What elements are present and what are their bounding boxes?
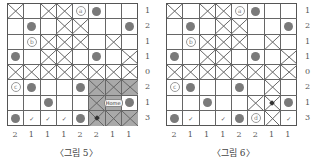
grid-cell — [265, 4, 281, 19]
row-label: 3 — [305, 110, 310, 125]
grid-cell — [106, 35, 122, 50]
grid-cell — [57, 65, 73, 80]
cross-mark-icon — [265, 111, 280, 126]
grid-cell — [281, 19, 297, 34]
cross-mark-icon — [200, 50, 215, 64]
grid-cell — [24, 4, 40, 19]
circled-letter-d: d — [251, 113, 261, 123]
cross-mark-icon — [216, 4, 231, 18]
grid-cell — [248, 65, 264, 80]
grid-cell — [167, 35, 183, 50]
check-mark-icon: ✓ — [29, 115, 34, 122]
grid-cell — [8, 35, 24, 50]
grid-cell — [248, 96, 264, 111]
grid-cell — [216, 96, 232, 111]
filled-circle-icon — [284, 22, 293, 31]
grid-cell — [122, 80, 138, 95]
grid-cell — [57, 4, 73, 19]
cross-mark-icon — [89, 80, 104, 94]
col-label: 1 — [40, 130, 56, 139]
grid-cell — [73, 50, 89, 65]
col-labels-6: 21112211 — [166, 130, 296, 139]
grid-cell — [57, 96, 73, 111]
col-label: 2 — [88, 130, 104, 139]
grid-cell — [216, 19, 232, 34]
grid-cell — [24, 19, 40, 34]
grid-cell — [57, 80, 73, 95]
grid-cell — [41, 96, 57, 111]
grid-cell — [232, 65, 248, 80]
filled-circle-icon — [76, 114, 85, 123]
cross-mark-icon — [122, 65, 138, 79]
check-mark-icon: ✓ — [286, 115, 291, 122]
grid-cell — [281, 35, 297, 50]
grid-cell — [248, 19, 264, 34]
filled-circle-icon — [251, 52, 260, 61]
row-label: 2 — [145, 79, 150, 94]
grid-cell — [57, 50, 73, 65]
grid-cell — [167, 111, 183, 126]
cross-mark-icon — [248, 96, 263, 110]
grid-cell — [73, 65, 89, 80]
cross-mark-icon — [41, 50, 56, 64]
row-label: 1 — [305, 34, 310, 49]
cross-mark-icon — [8, 65, 23, 79]
cross-mark-icon — [57, 50, 72, 64]
grid-cell — [248, 50, 264, 65]
filled-circle-icon — [235, 114, 244, 123]
row-label: 3 — [145, 110, 150, 125]
col-label: 2 — [166, 130, 182, 139]
grid-cell — [122, 19, 138, 34]
row-label: 1 — [145, 49, 150, 64]
grid-cell — [232, 111, 248, 126]
check-mark-icon: ✓ — [221, 115, 226, 122]
check-mark-icon: ✓ — [62, 115, 67, 122]
grid-cell — [89, 19, 105, 34]
grid-cell: c — [167, 80, 183, 95]
cross-mark-icon — [57, 65, 72, 79]
grid-cell — [200, 80, 216, 95]
circled-letter-b: b — [186, 37, 196, 47]
grid-cell — [216, 65, 232, 80]
grid-cell: d — [248, 111, 264, 126]
cross-mark-icon — [167, 65, 182, 79]
grid-cell — [167, 19, 183, 34]
cross-mark-icon — [41, 4, 56, 18]
grid-cell: ✓ — [24, 111, 40, 126]
grid-cell — [8, 65, 24, 80]
grid-cell — [265, 19, 281, 34]
col-label: 1 — [23, 130, 39, 139]
row-label: 0 — [145, 64, 150, 79]
grid-cell — [73, 80, 89, 95]
grid-cell — [167, 50, 183, 65]
filled-circle-icon — [11, 52, 20, 61]
grid-cell — [8, 111, 24, 126]
grid-cell — [265, 65, 281, 80]
circled-letter-a: a — [76, 6, 86, 16]
col-label: 1 — [199, 130, 215, 139]
grid-cell — [89, 35, 105, 50]
grid-cell: ✓ — [57, 111, 73, 126]
grid-cell — [216, 4, 232, 19]
grid-cell — [89, 4, 105, 19]
row-label: 1 — [305, 3, 310, 18]
cross-mark-icon — [167, 4, 182, 18]
grid-cell — [8, 96, 24, 111]
figure-caption-5: 〈그림 5〉 — [55, 146, 98, 159]
grid-cell — [89, 111, 105, 126]
grid-cell — [248, 35, 264, 50]
grid-cell — [41, 4, 57, 19]
row-label: 2 — [305, 18, 310, 33]
grid-cell — [183, 65, 199, 80]
grid-cell — [89, 80, 105, 95]
grid-cell — [200, 111, 216, 126]
cross-mark-icon — [265, 35, 280, 49]
grid-cell — [281, 50, 297, 65]
grid-cell — [122, 96, 138, 111]
grid-cell — [248, 4, 264, 19]
grid-cell — [73, 111, 89, 126]
cross-mark-icon — [41, 35, 56, 49]
grid-cell: ✓ — [183, 111, 199, 126]
grid-cell — [106, 111, 122, 126]
grid-cell: b — [24, 35, 40, 50]
